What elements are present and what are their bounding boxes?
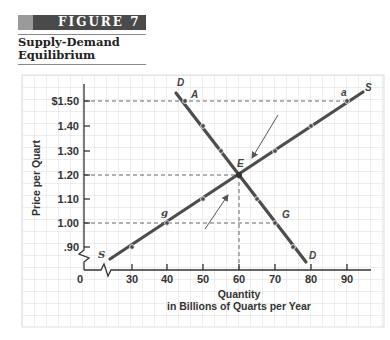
x-tick-50: 50 bbox=[197, 273, 209, 285]
x-tick-80: 80 bbox=[305, 273, 317, 285]
label-point-E: E bbox=[237, 158, 244, 169]
x-tick-90: 90 bbox=[341, 273, 353, 285]
y-axis-title: Price per Quart bbox=[30, 140, 42, 216]
y-tick-1.50: $1.50 bbox=[51, 95, 79, 107]
label-demand-top: D bbox=[177, 77, 184, 88]
label-point-a: a bbox=[341, 87, 347, 98]
chart: $1.50 1.40 1.30 1.20 1.10 1.00 .90 0 30 … bbox=[0, 0, 390, 340]
label-supply-top: S bbox=[365, 82, 372, 93]
x-axis-title-line2: in Billions of Quarts per Year bbox=[167, 300, 311, 312]
y-tick-1.40: 1.40 bbox=[58, 120, 79, 132]
x-tick-70: 70 bbox=[269, 273, 281, 285]
x-tick-40: 40 bbox=[161, 273, 173, 285]
y-tick-1.10: 1.10 bbox=[58, 193, 79, 205]
x-tick-0: 0 bbox=[77, 273, 83, 285]
x-tick-30: 30 bbox=[126, 273, 138, 285]
label-point-G: G bbox=[282, 209, 290, 220]
y-tick-1.00: 1.00 bbox=[58, 217, 79, 229]
label-supply-bottom: S bbox=[98, 249, 105, 260]
label-point-A: A bbox=[190, 89, 198, 100]
label-point-g: g bbox=[161, 207, 168, 218]
y-tick-0.90: .90 bbox=[64, 241, 79, 253]
y-tick-1.20: 1.20 bbox=[58, 169, 79, 181]
equilibrium-point bbox=[236, 172, 242, 178]
y-tick-1.30: 1.30 bbox=[58, 145, 79, 157]
x-axis-title-line1: Quantity bbox=[218, 288, 261, 300]
label-demand-bottom: D bbox=[309, 250, 316, 261]
x-tick-60: 60 bbox=[233, 273, 245, 285]
